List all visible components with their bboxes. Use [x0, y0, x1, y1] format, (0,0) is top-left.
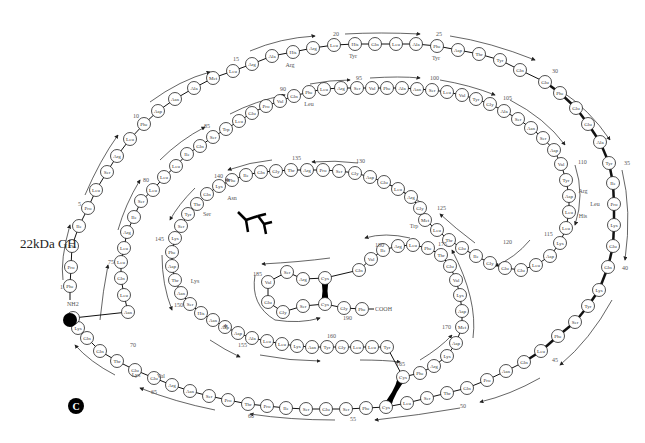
residue: Gly: [349, 167, 362, 180]
direction-arrow: [250, 414, 335, 420]
residue: Ser: [184, 298, 197, 311]
svg-text:Glu: Glu: [501, 266, 509, 271]
residue: Glu: [378, 176, 391, 189]
svg-text:Cys: Cys: [382, 405, 390, 410]
svg-text:Leu: Leu: [565, 210, 573, 215]
svg-text:Lys: Lys: [293, 344, 300, 349]
residue: Leu: [563, 206, 576, 219]
disulfide-bonds: [320, 278, 408, 407]
residues: PheProThrIleProLeuSerArgLeuPheAspAsnAlaM…: [64, 38, 621, 416]
svg-text:Leu: Leu: [368, 345, 376, 350]
svg-text:His: His: [352, 42, 359, 47]
svg-text:Asp: Asp: [454, 48, 463, 53]
residue: Ser: [135, 195, 148, 208]
residue-number: 80: [143, 177, 149, 183]
svg-text:Ser: Ser: [206, 394, 213, 399]
residue: Ile: [470, 250, 483, 263]
svg-text:Leu: Leu: [92, 188, 100, 193]
svg-text:Arg: Arg: [168, 383, 176, 388]
svg-text:Leu: Leu: [160, 175, 168, 180]
svg-text:Tyr: Tyr: [497, 58, 504, 63]
residue: Ser: [426, 84, 439, 97]
svg-text:Phe: Phe: [305, 90, 313, 95]
residue-number: 25: [436, 31, 442, 37]
residue: Asn: [175, 287, 188, 300]
svg-text:Ile: Ile: [473, 254, 479, 259]
residue: Arg: [166, 379, 179, 392]
residue: Thr: [191, 198, 204, 211]
svg-text:Met: Met: [421, 218, 430, 223]
residue: Leu: [118, 242, 131, 255]
svg-text:Thr: Thr: [113, 359, 121, 364]
svg-text:Thr: Thr: [437, 253, 445, 258]
residue: Ser: [281, 266, 294, 279]
svg-text:Val: Val: [369, 86, 376, 91]
svg-text:Arg: Arg: [309, 46, 317, 51]
svg-text:Glu: Glu: [264, 300, 272, 305]
residue: Tyr: [603, 157, 616, 170]
residue: His: [287, 46, 300, 59]
svg-text:Met: Met: [209, 76, 218, 81]
svg-text:Gln: Gln: [83, 336, 91, 341]
svg-text:Gly: Gly: [486, 261, 494, 266]
residue: Arg: [428, 360, 441, 373]
residue: His: [195, 307, 208, 320]
svg-text:Lys: Lys: [443, 354, 450, 359]
residue: Lys: [441, 350, 454, 363]
residue: Tyr: [494, 54, 507, 67]
residue: Ser: [340, 403, 353, 416]
residue: Trp: [220, 123, 233, 136]
residue: Ala: [498, 105, 511, 118]
residue-number: 15: [233, 56, 239, 62]
svg-text:Gln: Gln: [516, 68, 524, 73]
residue: Leu: [90, 184, 103, 197]
svg-text:Thr: Thr: [475, 52, 483, 57]
residue: Asn: [122, 306, 135, 319]
svg-text:Leu: Leu: [149, 188, 157, 193]
residue: Asn: [306, 341, 319, 354]
residue-number: 45: [552, 357, 558, 363]
svg-text:Phe: Phe: [140, 122, 148, 127]
svg-text:Gln: Gln: [203, 192, 211, 197]
residue: Leu: [441, 86, 454, 99]
svg-text:Asp: Asp: [154, 109, 163, 114]
svg-text:Cys: Cys: [321, 276, 329, 281]
svg-text:Pro: Pro: [320, 168, 327, 173]
svg-text:Ser: Ser: [343, 407, 350, 412]
residue-number: 185: [253, 271, 262, 277]
residue: Arg: [301, 164, 314, 177]
residue: Gly: [414, 202, 427, 215]
svg-text:Thr: Thr: [287, 168, 295, 173]
residue: Ala: [246, 332, 259, 345]
residue-number: 75: [108, 259, 114, 265]
svg-text:Phe: Phe: [358, 307, 366, 312]
svg-text:Val: Val: [265, 280, 272, 285]
residue: Gln: [81, 332, 94, 345]
svg-text:Ile: Ile: [184, 152, 190, 157]
residue: Arg: [111, 150, 124, 163]
svg-text:Tyr: Tyr: [473, 97, 480, 102]
residue: Leu: [233, 115, 246, 128]
residue: Leu: [118, 289, 131, 302]
svg-text:Leu: Leu: [120, 246, 128, 251]
svg-text:Asn: Asn: [124, 310, 133, 315]
svg-text:Ser: Ser: [429, 88, 436, 93]
svg-text:Ser: Ser: [187, 302, 194, 307]
residue: Gly: [338, 302, 351, 315]
svg-text:Cys: Cys: [399, 375, 407, 380]
residue-number: 85: [204, 123, 210, 129]
svg-text:Gln: Gln: [290, 94, 298, 99]
variant-label: His: [579, 213, 588, 219]
residue: Cys: [319, 272, 332, 285]
residue: Ala: [410, 38, 423, 51]
svg-text:Ala: Ala: [412, 42, 420, 47]
svg-text:Pro: Pro: [263, 104, 270, 109]
residue: Ser: [537, 132, 550, 145]
residue: Gln: [201, 188, 214, 201]
residue: Ser: [300, 403, 313, 416]
variant-label: Lys: [132, 372, 141, 378]
residue: Gln: [255, 166, 268, 179]
svg-text:Gln: Gln: [355, 268, 363, 273]
residue: Ser: [569, 316, 582, 329]
residue: Gln: [514, 64, 527, 77]
